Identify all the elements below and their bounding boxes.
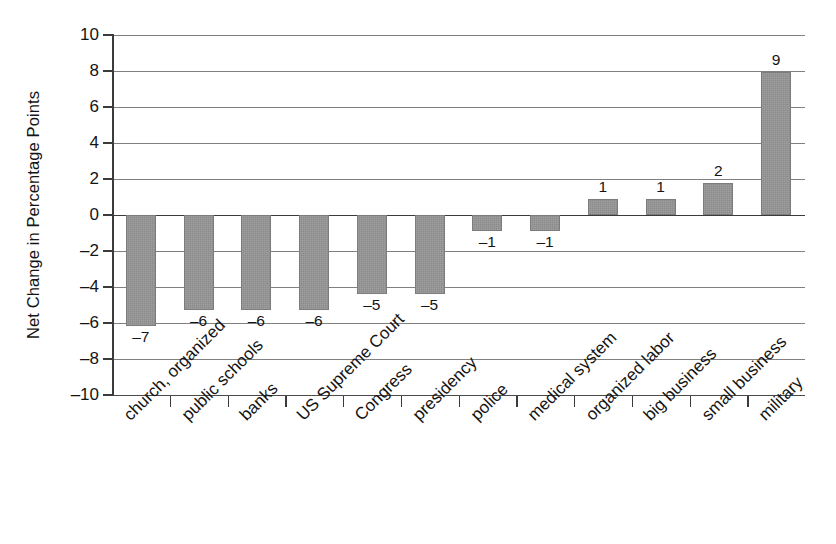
y-tick-label-10: 10 (0, 25, 99, 45)
y-tick-label--10: –10 (0, 385, 99, 405)
y-tick-mark--6 (103, 322, 112, 323)
gridline-6 (112, 107, 805, 108)
y-tick-mark-4 (103, 142, 112, 143)
bar (646, 199, 676, 215)
gridline-0 (112, 215, 805, 217)
y-tick-mark--8 (103, 358, 112, 359)
bar (126, 215, 156, 326)
bar (761, 72, 791, 215)
y-tick-label--4: –4 (0, 277, 99, 297)
gridline-8 (112, 71, 805, 72)
x-tick-mark (401, 396, 402, 407)
y-tick-label-2: 2 (0, 169, 99, 189)
y-tick-mark-2 (103, 178, 112, 179)
x-tick-mark (574, 396, 575, 407)
bar-value-label: 9 (746, 51, 806, 69)
bar-value-label: –1 (457, 233, 517, 251)
bar-value-label: –6 (226, 312, 286, 330)
gridline--4 (112, 287, 805, 288)
x-tick-mark (228, 396, 229, 407)
bar (184, 215, 214, 310)
bar-value-label: –5 (400, 296, 460, 314)
category-label: military (755, 373, 807, 425)
x-tick-mark (170, 396, 171, 407)
y-tick-mark-8 (103, 70, 112, 71)
bar (530, 215, 560, 231)
bar (415, 215, 445, 294)
x-tick-mark (632, 396, 633, 407)
gridline-4 (112, 143, 805, 144)
bar-value-label: –1 (515, 233, 575, 251)
x-tick-mark (343, 396, 344, 407)
bar-value-label: 2 (688, 162, 748, 180)
bar (703, 183, 733, 215)
x-tick-mark (459, 396, 460, 407)
bar (588, 199, 618, 215)
bar-value-label: 1 (631, 178, 691, 196)
bar-chart: Net Change in Percentage Points 1086420–… (0, 0, 836, 544)
gridline-10 (112, 35, 805, 36)
bar (299, 215, 329, 310)
y-tick-mark--10 (103, 394, 112, 395)
bar (472, 215, 502, 231)
y-tick-label--2: –2 (0, 241, 99, 261)
y-tick-label--8: –8 (0, 349, 99, 369)
y-tick-mark-6 (103, 106, 112, 107)
bar-value-label: –7 (111, 328, 171, 346)
x-tick-mark (747, 396, 748, 407)
bar-value-label: 1 (573, 178, 633, 196)
category-label: banks (236, 379, 282, 425)
y-tick-label--6: –6 (0, 313, 99, 333)
x-tick-mark (690, 396, 691, 407)
x-tick-mark (285, 396, 286, 407)
category-label: police (467, 380, 513, 426)
y-tick-mark--4 (103, 286, 112, 287)
y-tick-label-8: 8 (0, 61, 99, 81)
bar (357, 215, 387, 294)
y-tick-label-0: 0 (0, 205, 99, 225)
bar-value-label: –6 (284, 312, 344, 330)
y-tick-label-6: 6 (0, 97, 99, 117)
x-tick-mark (516, 396, 517, 407)
y-tick-mark-10 (103, 34, 112, 35)
y-tick-mark-0 (103, 214, 112, 215)
bar (241, 215, 271, 310)
y-tick-label-4: 4 (0, 133, 99, 153)
y-tick-mark--2 (103, 250, 112, 251)
